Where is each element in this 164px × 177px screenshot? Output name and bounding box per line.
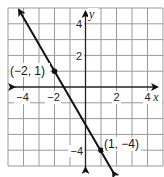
x-tick-label: −2 xyxy=(47,91,60,103)
y-axis-label: y xyxy=(88,7,95,21)
coordinate-graph: −4 −2 2 4 x 4 2 −4 y (−2, 1) (1, −4) xyxy=(0,0,164,177)
y-tick-label: 4 xyxy=(76,18,82,30)
point-a-label: (−2, 1) xyxy=(10,64,45,78)
point-a-marker xyxy=(52,68,58,74)
graphed-line xyxy=(19,10,113,172)
x-axis-label: x xyxy=(152,90,159,104)
x-tick-label: 2 xyxy=(113,91,119,103)
point-b-label: (1, −4) xyxy=(104,137,139,151)
y-tick-label: 2 xyxy=(76,50,82,62)
x-tick-label: −4 xyxy=(16,91,29,103)
point-b-marker xyxy=(98,147,104,153)
y-tick-label: −4 xyxy=(70,145,83,157)
x-tick-label: 4 xyxy=(144,91,150,103)
